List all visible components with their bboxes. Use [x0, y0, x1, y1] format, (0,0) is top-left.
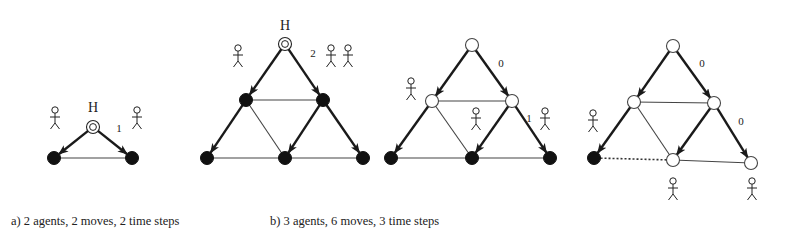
edge-b3-ml-mr — [634, 102, 714, 103]
agent-icon-b3-1 — [668, 178, 678, 200]
count-label-a-0: 1 — [116, 122, 122, 134]
agent-icon-a-1 — [132, 107, 142, 129]
node-open-b3-bm — [667, 154, 680, 167]
edge-arrow-b3-top-mr — [676, 50, 710, 97]
count-label-b3-1: 0 — [738, 115, 744, 127]
node-filled-b1-bl — [201, 152, 214, 165]
agent-icon-b2-1 — [471, 108, 481, 130]
edge-arrow-b1-mr-br — [326, 105, 359, 153]
node-home-b1 — [279, 38, 292, 51]
edge-arrow-b1-top-ml — [250, 49, 282, 95]
agent-icon-b3-0 — [588, 110, 598, 132]
agent-icon-b1-0 — [233, 45, 243, 67]
node-filled-b1-br — [357, 152, 370, 165]
count-label-b3-0: 0 — [699, 57, 705, 69]
edge-arrow-b1-mr-bm — [289, 105, 320, 153]
count-label-b2-1: 1 — [526, 112, 532, 124]
node-open-b3-top — [667, 40, 680, 53]
edge-b2-ml-bm — [432, 101, 472, 158]
node-filled-a-bl — [48, 152, 61, 165]
edge-arrow-b3-mr-bm — [677, 107, 711, 154]
node-filled-b2-br — [544, 152, 557, 165]
edge-arrow-b1-ml-bl — [211, 105, 243, 153]
agent-icon-b2-2 — [540, 108, 550, 130]
node-home-a — [87, 121, 100, 134]
edge-arrow-b2-mr-bm — [476, 106, 509, 153]
node-filled-b1-ml — [240, 94, 253, 107]
edge-arrow-b3-ml-bl — [598, 106, 631, 152]
node-filled-b1-mr — [317, 94, 330, 107]
edge-arrow-b2-ml-bl — [395, 105, 429, 152]
node-open-b2-top — [466, 39, 479, 52]
agent-icon-a-0 — [50, 107, 60, 129]
edge-arrow-b3-top-ml — [638, 51, 670, 97]
edge-arrow-a-top-bl — [59, 130, 89, 154]
node-open-b3-ml — [628, 96, 641, 109]
edge-arrow-b2-top-ml — [436, 49, 469, 95]
node-filled-a-br — [126, 152, 139, 165]
edge-b3-bm-br — [673, 160, 751, 163]
node-filled-b2-bl — [385, 152, 398, 165]
edge-b1-ml-bm — [246, 100, 285, 158]
home-label-b1: H — [280, 18, 290, 33]
agent-icon-b3-2 — [747, 178, 757, 200]
caption-b: b) 3 agents, 6 moves, 3 time steps — [270, 214, 439, 229]
count-label-b2-0: 0 — [498, 57, 504, 69]
agent-icon-b2-0 — [406, 78, 416, 100]
edge-dotted-b3-bm-bl — [601, 158, 666, 160]
node-open-b2-ml — [426, 95, 439, 108]
edge-arrow-a-top-br — [97, 130, 127, 154]
agent-icon-b1-2 — [343, 45, 353, 67]
node-filled-b3-bl — [588, 152, 601, 165]
node-filled-b1-bm — [279, 152, 292, 165]
edge-b3-ml-bm — [634, 102, 673, 160]
agent-icon-b1-1 — [326, 45, 336, 67]
caption-a: a) 2 agents, 2 moves, 2 time steps — [11, 214, 179, 229]
home-label-a: H — [88, 100, 98, 115]
node-open-b3-br — [745, 157, 758, 170]
count-label-b1-0: 2 — [310, 47, 316, 59]
agent-graph-figure: H1H20100 — [0, 0, 795, 248]
node-filled-b2-bm — [466, 152, 479, 165]
node-open-b3-mr — [708, 97, 721, 110]
node-open-b2-mr — [506, 95, 519, 108]
